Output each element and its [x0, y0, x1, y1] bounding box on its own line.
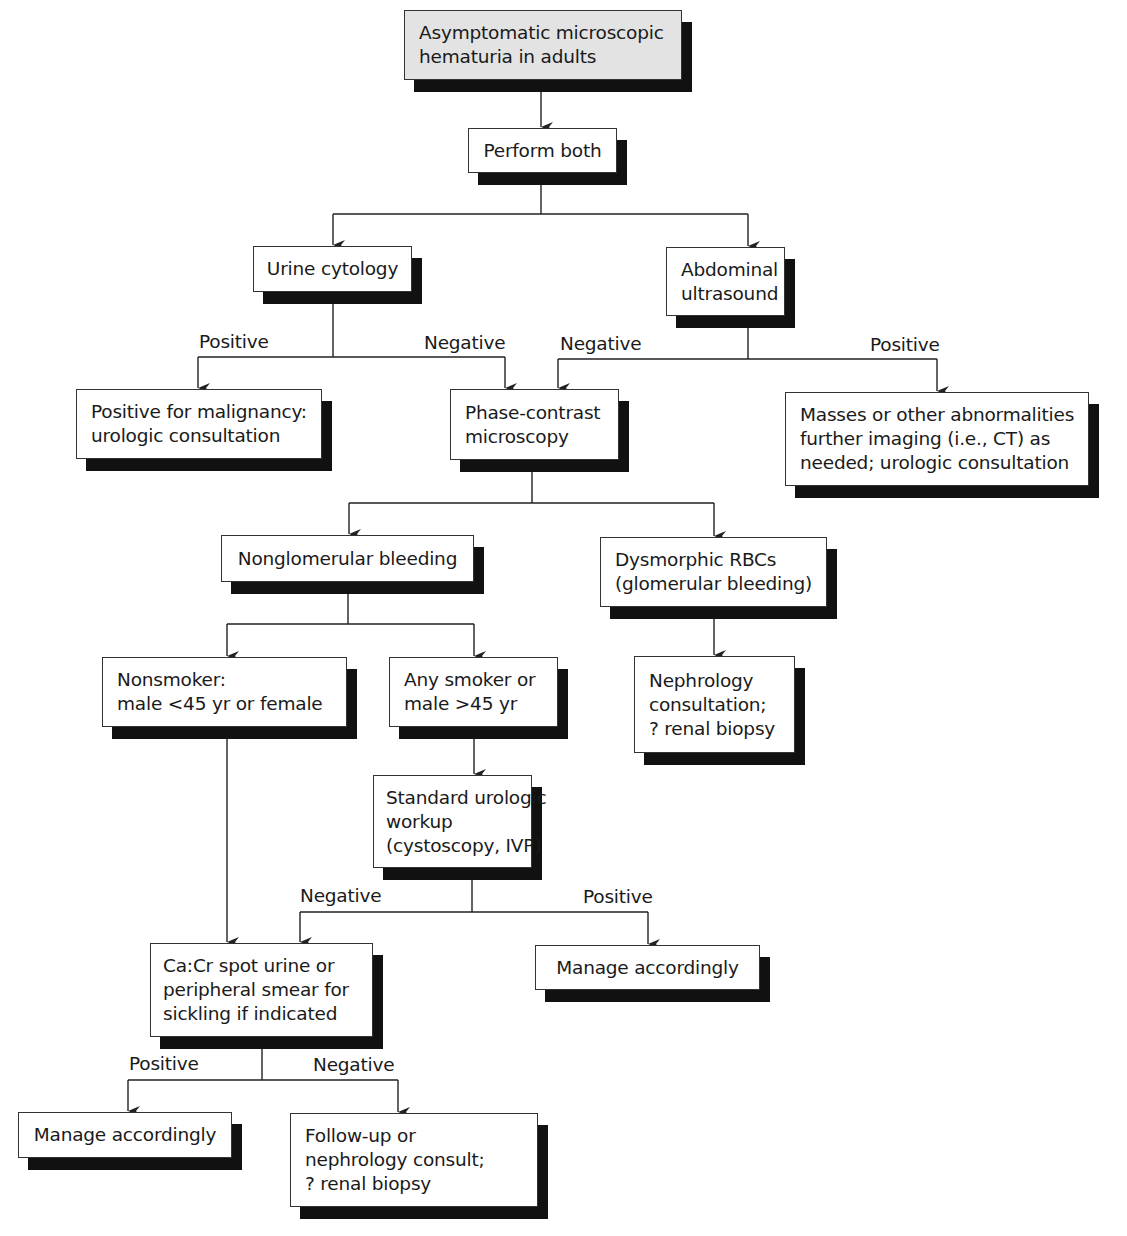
node-any-smoker: Any smoker or male >45 yr — [389, 657, 558, 727]
node-box: Nephrology consultation; ? renal biopsy — [634, 656, 795, 753]
node-text: Abdominal — [681, 258, 770, 282]
node-box: Nonglomerular bleeding — [221, 535, 474, 582]
node-text: Any smoker or — [404, 668, 543, 692]
node-manage-accordingly-left: Manage accordingly — [18, 1112, 232, 1158]
node-text: (glomerular bleeding) — [615, 572, 812, 596]
node-phase-contrast-microscopy: Phase-contrast microscopy — [450, 389, 619, 460]
node-text: further imaging (i.e., CT) as — [800, 427, 1074, 451]
node-nephrology-consultation: Nephrology consultation; ? renal biopsy — [634, 656, 795, 753]
connector-lines — [0, 0, 1127, 1236]
node-text: male >45 yr — [404, 692, 543, 716]
node-text: Nonsmoker: — [117, 668, 332, 692]
node-text: Nonglomerular bleeding — [238, 547, 457, 571]
node-box: Phase-contrast microscopy — [450, 389, 619, 460]
node-nonglomerular-bleeding: Nonglomerular bleeding — [221, 535, 474, 582]
node-text: Standard urologic — [386, 786, 523, 810]
node-text: needed; urologic consultation — [800, 451, 1074, 475]
node-text: Nephrology — [649, 669, 780, 693]
edge-label-ultrasound-positive: Positive — [870, 334, 940, 356]
node-follow-up-nephrology: Follow-up or nephrology consult; ? renal… — [290, 1113, 538, 1207]
node-box: Perform both — [468, 128, 617, 173]
node-box: Manage accordingly — [18, 1112, 232, 1158]
node-text: Ca:Cr spot urine or — [163, 954, 364, 978]
node-text: Positive for malignancy: — [91, 400, 307, 424]
node-box: Follow-up or nephrology consult; ? renal… — [290, 1113, 538, 1207]
node-text: Masses or other abnormalities — [800, 403, 1074, 427]
node-text: Manage accordingly — [556, 956, 738, 980]
node-standard-urologic-workup: Standard urologic workup (cystoscopy, IV… — [373, 775, 532, 868]
node-urine-cytology: Urine cytology — [253, 246, 412, 292]
node-text: Phase-contrast — [465, 401, 604, 425]
node-text: nephrology consult; — [305, 1148, 523, 1172]
node-text: male <45 yr or female — [117, 692, 332, 716]
node-text: consultation; — [649, 693, 780, 717]
node-masses-abnormalities: Masses or other abnormalities further im… — [785, 392, 1089, 486]
node-text: ? renal biopsy — [305, 1172, 523, 1196]
node-box: Ca:Cr spot urine or peripheral smear for… — [150, 943, 373, 1037]
node-text: ultrasound — [681, 282, 770, 306]
edge-label-ultrasound-negative: Negative — [560, 333, 641, 355]
node-box: Manage accordingly — [535, 945, 760, 990]
node-box: Masses or other abnormalities further im… — [785, 392, 1089, 486]
edge-label-workup-negative: Negative — [300, 885, 381, 907]
node-cacr-spot-urine: Ca:Cr spot urine or peripheral smear for… — [150, 943, 373, 1037]
flowchart-canvas: Asymptomatic microscopic hematuria in ad… — [0, 0, 1127, 1236]
node-text: Perform both — [483, 139, 601, 163]
node-text: Urine cytology — [267, 257, 398, 281]
node-text: Manage accordingly — [34, 1123, 216, 1147]
node-text: workup — [386, 810, 523, 834]
node-box: Standard urologic workup (cystoscopy, IV… — [373, 775, 532, 868]
node-abdominal-ultrasound: Abdominal ultrasound — [666, 247, 785, 316]
node-text: Asymptomatic microscopic — [419, 21, 667, 45]
node-text: urologic consultation — [91, 424, 307, 448]
node-box: Dysmorphic RBCs (glomerular bleeding) — [600, 537, 827, 607]
node-nonsmoker: Nonsmoker: male <45 yr or female — [102, 657, 347, 727]
node-box: Asymptomatic microscopic hematuria in ad… — [404, 10, 682, 80]
node-dysmorphic-rbcs: Dysmorphic RBCs (glomerular bleeding) — [600, 537, 827, 607]
node-text: sickling if indicated — [163, 1002, 364, 1026]
node-text: (cystoscopy, IVP) — [386, 834, 523, 858]
node-text: peripheral smear for — [163, 978, 364, 1002]
node-box: Positive for malignancy: urologic consul… — [76, 389, 322, 459]
edge-label-cytology-positive: Positive — [199, 331, 269, 353]
node-text: Follow-up or — [305, 1124, 523, 1148]
node-box: Any smoker or male >45 yr — [389, 657, 558, 727]
edge-label-cytology-negative: Negative — [424, 332, 505, 354]
node-box: Abdominal ultrasound — [666, 247, 785, 316]
node-text: microscopy — [465, 425, 604, 449]
node-text: Dysmorphic RBCs — [615, 548, 812, 572]
node-box: Urine cytology — [253, 246, 412, 292]
node-asymptomatic-hematuria: Asymptomatic microscopic hematuria in ad… — [404, 10, 682, 80]
node-perform-both: Perform both — [468, 128, 617, 173]
edge-label-cacr-negative: Negative — [313, 1054, 394, 1076]
node-positive-for-malignancy: Positive for malignancy: urologic consul… — [76, 389, 322, 459]
node-box: Nonsmoker: male <45 yr or female — [102, 657, 347, 727]
node-text: ? renal biopsy — [649, 717, 780, 741]
node-manage-accordingly-right: Manage accordingly — [535, 945, 760, 990]
node-text: hematuria in adults — [419, 45, 667, 69]
edge-label-workup-positive: Positive — [583, 886, 653, 908]
edge-label-cacr-positive: Positive — [129, 1053, 199, 1075]
